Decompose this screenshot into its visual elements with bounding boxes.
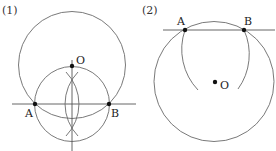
figure-1-label: (1) [2,4,18,17]
figure-2-label: (2) [142,4,158,17]
point-a [183,28,187,32]
point-b [107,102,111,106]
geometry-diagram: (1) O A B (2) A B O [0,0,276,151]
label-o: O [76,54,85,67]
point-b [242,28,246,32]
label-b: B [244,15,252,28]
label-a: A [24,107,34,120]
label-a: A [176,15,186,28]
point-o [213,80,217,84]
figure-1: (1) O A B [2,4,136,151]
point-a [33,102,37,106]
arc-from-a [238,30,249,89]
figure-2: (2) A B O [142,4,275,142]
point-o [70,64,74,68]
arc-from-b [182,30,198,90]
label-b: B [111,107,119,120]
label-o: O [220,79,229,92]
